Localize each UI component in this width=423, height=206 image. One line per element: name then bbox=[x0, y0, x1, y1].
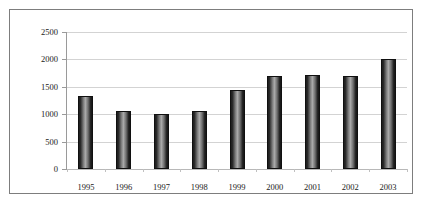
bar[interactable] bbox=[381, 59, 396, 169]
x-axis-tick bbox=[143, 169, 144, 172]
x-axis-tick bbox=[218, 169, 219, 172]
bar[interactable] bbox=[230, 90, 245, 169]
plot-area bbox=[67, 32, 407, 169]
x-axis-tick bbox=[331, 169, 332, 172]
y-axis-tick-label: 1500 bbox=[41, 83, 58, 92]
y-axis-tick-label: 2000 bbox=[41, 55, 58, 64]
gridline bbox=[67, 59, 407, 60]
x-axis-tick-label: 1996 bbox=[115, 183, 132, 192]
x-axis-tick-label: 2003 bbox=[380, 183, 397, 192]
x-axis-tick-label: 2001 bbox=[304, 183, 321, 192]
y-axis-tick-label: 1000 bbox=[41, 110, 58, 119]
x-axis-tick bbox=[369, 169, 370, 172]
bar[interactable] bbox=[78, 96, 93, 169]
y-axis-tick-label: 500 bbox=[45, 137, 58, 146]
y-axis-tick bbox=[62, 142, 67, 143]
x-axis-tick-labels: 199519961997199819992000200120022003 bbox=[67, 169, 407, 191]
x-axis-tick bbox=[294, 169, 295, 172]
bar[interactable] bbox=[154, 114, 169, 169]
y-axis-tick bbox=[62, 59, 67, 60]
gridline bbox=[67, 32, 407, 33]
x-axis-tick-label: 2000 bbox=[266, 183, 283, 192]
x-axis-tick-label: 1999 bbox=[229, 183, 246, 192]
x-axis-tick bbox=[67, 169, 68, 172]
figure-caption bbox=[0, 196, 423, 206]
bar[interactable] bbox=[305, 75, 320, 169]
y-axis-tick bbox=[62, 32, 67, 33]
bar[interactable] bbox=[343, 76, 358, 169]
chart-frame: 05001000150020002500 1995199619971998199… bbox=[9, 9, 413, 194]
x-axis-tick bbox=[256, 169, 257, 172]
y-axis-tick-label: 2500 bbox=[41, 28, 58, 37]
x-axis-tick bbox=[180, 169, 181, 172]
x-axis-tick-label: 1997 bbox=[153, 183, 170, 192]
figure: 05001000150020002500 1995199619971998199… bbox=[0, 0, 423, 206]
bar[interactable] bbox=[192, 111, 207, 169]
bar[interactable] bbox=[267, 76, 282, 169]
x-axis-tick-label: 2002 bbox=[342, 183, 359, 192]
bar[interactable] bbox=[116, 111, 131, 169]
x-axis-tick-label: 1995 bbox=[77, 183, 94, 192]
y-axis-tick bbox=[62, 87, 67, 88]
y-axis-tick-label: 0 bbox=[54, 165, 58, 174]
x-axis-tick-label: 1998 bbox=[191, 183, 208, 192]
y-axis-tick bbox=[62, 114, 67, 115]
x-axis-tick bbox=[407, 169, 408, 172]
x-axis-tick bbox=[105, 169, 106, 172]
